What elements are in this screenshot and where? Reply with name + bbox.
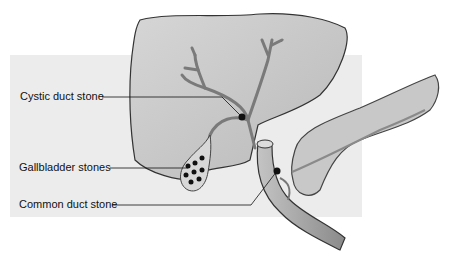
label-gallbladder-stones: Gallbladder stones	[19, 161, 111, 174]
biliary-illustration	[0, 0, 454, 256]
label-cystic-duct-stone: Cystic duct stone	[20, 90, 104, 103]
label-common-duct-stone: Common duct stone	[19, 198, 117, 211]
